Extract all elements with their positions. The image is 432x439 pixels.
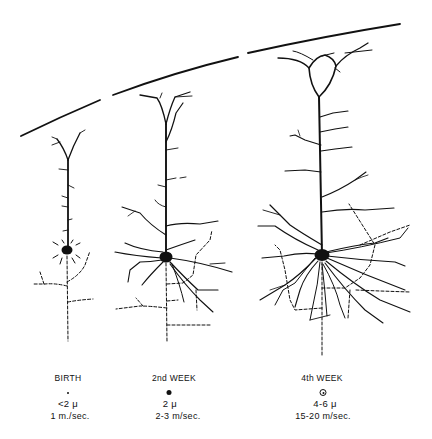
conduction-velocity-2nd-week: 2-3 m/sec. bbox=[155, 411, 200, 421]
stage-label-4th-week: 4th WEEK bbox=[301, 373, 343, 383]
neuron-birth bbox=[33, 130, 93, 341]
stage-label-2nd-week: 2nd WEEK bbox=[152, 373, 196, 383]
axon-cross-section-4th-week-icon bbox=[320, 389, 327, 396]
neuron-2nd-week bbox=[115, 92, 232, 342]
conduction-velocity-birth: 1 m./sec. bbox=[50, 411, 89, 421]
neuron-4th-week bbox=[258, 43, 410, 356]
cortical-surface-curve bbox=[21, 24, 400, 136]
stage-label-birth: BIRTH bbox=[55, 373, 82, 383]
axon-diameter-4th-week: 4-6 μ bbox=[313, 398, 336, 409]
axon-diameter-2nd-week: 2 μ bbox=[163, 398, 177, 409]
axon-diameter-birth: <2 μ bbox=[58, 398, 78, 409]
axon-cross-section-2nd-week-icon bbox=[167, 390, 172, 395]
axon-cross-section-birth-icon bbox=[67, 392, 69, 394]
neuron-development-figure: BIRTH 2nd WEEK 4th WEEK <2 μ 2 μ 4-6 μ 1… bbox=[0, 0, 432, 439]
conduction-velocity-4th-week: 15-20 m/sec. bbox=[295, 411, 351, 421]
